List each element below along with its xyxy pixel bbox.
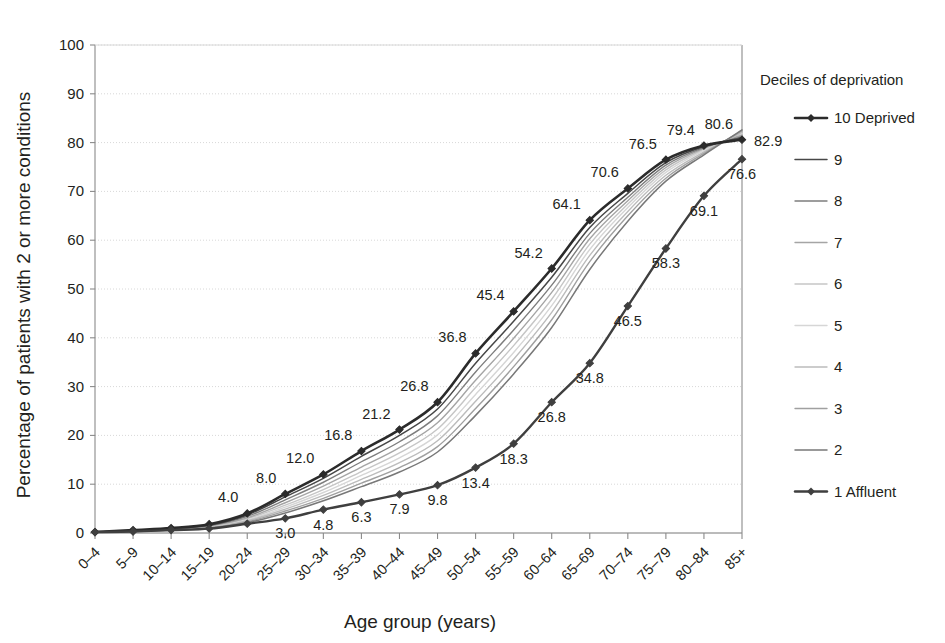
data-label-10-deprived-13: 64.1 <box>553 196 581 212</box>
y-tick-label-40: 40 <box>67 329 84 346</box>
legend-label: 4 <box>834 358 842 375</box>
line-chart: 0102030405060708090100 0–45–910–1415–192… <box>0 0 945 643</box>
data-label-10-deprived-11: 45.4 <box>476 287 504 303</box>
y-axis-title: Percentage of patients with 2 or more co… <box>13 92 34 499</box>
data-label-10-deprived-9: 26.8 <box>400 378 428 394</box>
legend-label: 1 Affluent <box>834 483 897 500</box>
legend-label: 5 <box>834 317 842 334</box>
y-tick-label-20: 20 <box>67 426 84 443</box>
data-label-1-affluent-12: 26.8 <box>538 409 566 425</box>
y-tick-label-0: 0 <box>76 524 84 541</box>
legend-label: 3 <box>834 400 842 417</box>
data-label-1-affluent-15: 58.3 <box>652 255 680 271</box>
legend-label: 9 <box>834 151 842 168</box>
legend-label: 2 <box>834 441 842 458</box>
data-label-extra-0: 82.9 <box>754 133 782 149</box>
y-tick-label-30: 30 <box>67 378 84 395</box>
data-label-1-affluent-16: 69.1 <box>690 203 718 219</box>
data-label-1-affluent-6: 4.8 <box>313 517 333 533</box>
data-label-1-affluent-13: 34.8 <box>576 370 604 386</box>
data-label-10-deprived-8: 21.2 <box>362 406 390 422</box>
data-label-10-deprived-14: 70.6 <box>591 164 619 180</box>
chart-container: 0102030405060708090100 0–45–910–1415–192… <box>0 0 945 643</box>
data-label-1-affluent-14: 46.5 <box>614 313 642 329</box>
y-tick-label-70: 70 <box>67 182 84 199</box>
data-label-10-deprived-15: 76.5 <box>629 136 657 152</box>
legend-label: 6 <box>834 275 842 292</box>
data-label-1-affluent-11: 18.3 <box>500 451 528 467</box>
data-label-1-affluent-8: 7.9 <box>389 501 409 517</box>
data-label-10-deprived-6: 12.0 <box>286 450 314 466</box>
legend-label: 8 <box>834 192 842 209</box>
data-label-10-deprived-7: 16.8 <box>324 427 352 443</box>
y-tick-label-80: 80 <box>67 134 84 151</box>
data-label-10-deprived-10: 36.8 <box>438 329 466 345</box>
legend-label: 7 <box>834 234 842 251</box>
data-label-10-deprived-4: 4.0 <box>218 489 238 505</box>
data-label-10-deprived-12: 54.2 <box>514 245 542 261</box>
y-tick-label-60: 60 <box>67 231 84 248</box>
legend-title: Deciles of deprivation <box>760 71 903 88</box>
data-label-10-deprived-17: 80.6 <box>705 116 733 132</box>
legend-label: 10 Deprived <box>834 109 915 126</box>
data-label-1-affluent-10: 13.4 <box>461 475 489 491</box>
data-label-1-affluent-9: 9.8 <box>427 492 447 508</box>
data-label-10-deprived-16: 79.4 <box>667 122 695 138</box>
data-label-1-affluent-5: 3.0 <box>275 525 295 541</box>
data-label-1-affluent-7: 6.3 <box>351 509 371 525</box>
data-label-10-deprived-5: 8.0 <box>256 470 276 486</box>
y-tick-label-50: 50 <box>67 280 84 297</box>
y-tick-label-100: 100 <box>59 36 84 53</box>
y-tick-label-90: 90 <box>67 85 84 102</box>
data-label-1-affluent-17: 76.6 <box>728 166 756 182</box>
x-axis-title: Age group (years) <box>344 611 496 632</box>
y-tick-label-10: 10 <box>67 475 84 492</box>
